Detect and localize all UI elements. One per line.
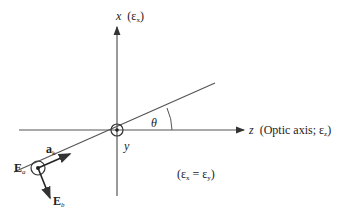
ak-label: ak — [46, 142, 56, 157]
uniaxial-crystal-diagram: x (εx) z (Optic axis; εz) y θ ak Ea Eb (… — [0, 0, 344, 216]
z-axis-label: z (Optic axis; εz) — [248, 123, 331, 138]
x-axis-label: x (εx) — [115, 9, 144, 24]
eb-label: Eb — [53, 194, 65, 209]
ea-label: Ea — [14, 161, 26, 176]
propagation-line — [14, 83, 215, 172]
theta-label: θ — [151, 116, 157, 130]
isotropy-condition: (εx = εy) — [177, 167, 215, 182]
theta-arc — [167, 108, 172, 130]
y-axis-label: y — [123, 139, 130, 153]
